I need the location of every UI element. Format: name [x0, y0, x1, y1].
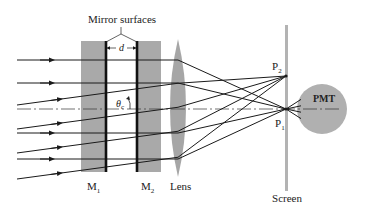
angle-arc-arrowhead	[126, 96, 130, 100]
tilted-ray-4-arrowhead	[50, 173, 60, 174]
fabry-perot-diagram: Mirror surfaces d θc M1 M2 Lens P2 P1 PM…	[0, 0, 372, 212]
m1-label: M1	[87, 180, 101, 195]
focus-point-p2	[284, 74, 287, 77]
p2-label: P2	[272, 60, 282, 75]
mirror-surfaces-label: Mirror surfaces	[88, 13, 156, 25]
m2-label: M2	[141, 180, 155, 195]
focus-point-p1	[284, 107, 287, 110]
tilted-ray-1-arrowhead	[50, 99, 60, 100]
mirror-m2-substrate	[138, 41, 161, 172]
spacing-d-label: d	[119, 42, 125, 53]
mirror-m1-substrate	[81, 41, 106, 172]
tilted-ray-3-arrowhead	[50, 147, 60, 148]
p1-label: P1	[275, 117, 285, 132]
lens-label: Lens	[170, 180, 191, 192]
tilted-ray-2-arrowhead	[50, 123, 60, 124]
pmt-label: PMT	[313, 93, 336, 104]
mirror-surfaces-pointer	[106, 34, 137, 42]
screen-label: Screen	[272, 192, 302, 204]
